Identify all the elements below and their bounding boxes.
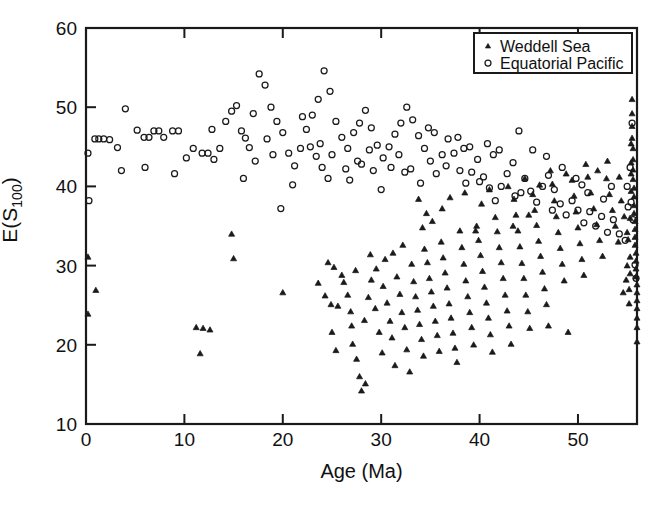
data-point-circle bbox=[433, 171, 439, 177]
data-point-triangle bbox=[430, 303, 436, 308]
data-point-triangle bbox=[555, 229, 561, 234]
data-point-triangle bbox=[559, 261, 565, 266]
data-point-circle bbox=[317, 141, 323, 147]
data-point-triangle bbox=[549, 181, 555, 186]
data-point-triangle bbox=[193, 324, 199, 329]
data-point-triangle bbox=[358, 388, 364, 393]
data-point-triangle bbox=[500, 275, 506, 280]
data-point-triangle bbox=[585, 174, 591, 179]
legend[interactable]: Weddell SeaEquatorial Pacific bbox=[474, 33, 632, 73]
data-point-triangle bbox=[454, 359, 460, 364]
data-point-circle bbox=[625, 204, 631, 210]
data-point-triangle bbox=[197, 350, 203, 355]
data-point-circle bbox=[587, 209, 593, 215]
data-point-circle bbox=[563, 212, 569, 218]
data-point-triangle bbox=[362, 381, 368, 386]
data-point-circle bbox=[359, 161, 365, 167]
data-point-triangle bbox=[629, 111, 635, 116]
data-point-circle bbox=[601, 196, 607, 202]
x-tick-label: 40 bbox=[469, 429, 490, 450]
data-point-circle bbox=[268, 104, 274, 110]
data-point-circle bbox=[368, 125, 374, 131]
data-point-triangle bbox=[436, 348, 442, 353]
data-point-triangle bbox=[322, 293, 328, 298]
data-point-triangle bbox=[615, 239, 621, 244]
data-point-triangle bbox=[349, 323, 355, 328]
data-point-circle bbox=[410, 117, 416, 123]
data-point-triangle bbox=[417, 321, 423, 326]
data-point-triangle bbox=[633, 250, 639, 255]
data-point-circle bbox=[451, 150, 457, 156]
data-point-circle bbox=[616, 231, 622, 237]
data-point-triangle bbox=[447, 194, 453, 199]
data-point-circle bbox=[427, 158, 433, 164]
data-point-triangle bbox=[357, 373, 363, 378]
data-point-triangle bbox=[628, 141, 634, 146]
series-weddell-sea-points bbox=[85, 96, 640, 393]
data-point-triangle bbox=[333, 347, 339, 352]
data-point-triangle bbox=[620, 290, 626, 295]
data-point-triangle bbox=[532, 207, 538, 212]
data-point-triangle bbox=[413, 293, 419, 298]
data-point-triangle bbox=[527, 325, 533, 330]
data-point-triangle bbox=[452, 345, 458, 350]
axis-ticks bbox=[86, 28, 578, 424]
data-point-triangle bbox=[609, 207, 615, 212]
data-point-triangle bbox=[523, 292, 529, 297]
data-point-circle bbox=[183, 155, 189, 161]
data-point-circle bbox=[439, 152, 445, 158]
data-point-circle bbox=[223, 118, 229, 124]
data-point-triangle bbox=[526, 212, 532, 217]
data-point-triangle bbox=[479, 201, 485, 206]
data-point-circle bbox=[175, 128, 181, 134]
data-point-circle bbox=[496, 147, 502, 153]
data-point-triangle bbox=[457, 228, 463, 233]
data-point-circle bbox=[246, 145, 252, 151]
data-point-triangle bbox=[505, 183, 511, 188]
data-point-triangle bbox=[474, 223, 480, 228]
data-point-triangle bbox=[440, 255, 446, 260]
legend-label[interactable]: Weddell Sea bbox=[500, 38, 591, 55]
x-tick-label: 0 bbox=[81, 429, 92, 450]
legend-label[interactable]: Equatorial Pacific bbox=[500, 55, 624, 72]
scatter-plot-figure: E(S100) 01020304050102030405060 Weddell … bbox=[0, 0, 660, 512]
data-point-circle bbox=[343, 166, 349, 172]
data-point-circle bbox=[234, 103, 240, 109]
axis-tick-labels: 01020304050102030405060 bbox=[56, 18, 589, 450]
data-point-triangle bbox=[392, 362, 398, 367]
data-point-circle bbox=[604, 229, 610, 235]
data-point-triangle bbox=[634, 305, 640, 310]
data-point-triangle bbox=[521, 275, 527, 280]
data-point-circle bbox=[205, 150, 211, 156]
data-point-triangle bbox=[563, 171, 569, 176]
data-point-circle bbox=[418, 180, 424, 186]
data-point-triangle bbox=[361, 317, 367, 322]
data-point-triangle bbox=[534, 222, 540, 227]
data-point-triangle bbox=[634, 315, 640, 320]
data-point-triangle bbox=[494, 229, 500, 234]
y-tick-label: 20 bbox=[56, 335, 77, 356]
data-point-triangle bbox=[390, 250, 396, 255]
data-point-triangle bbox=[380, 283, 386, 288]
data-point-triangle bbox=[606, 191, 612, 196]
data-point-circle bbox=[315, 96, 321, 102]
data-point-circle bbox=[443, 163, 449, 169]
data-point-triangle bbox=[634, 297, 640, 302]
data-point-triangle bbox=[485, 315, 491, 320]
data-point-triangle bbox=[421, 246, 427, 251]
data-point-triangle bbox=[439, 206, 445, 211]
data-point-triangle bbox=[432, 318, 438, 323]
data-point-circle bbox=[549, 207, 555, 213]
data-point-triangle bbox=[350, 341, 356, 346]
data-point-triangle bbox=[626, 286, 632, 291]
y-tick-label: 40 bbox=[56, 176, 77, 197]
data-point-triangle bbox=[557, 245, 563, 250]
data-point-circle bbox=[292, 163, 298, 169]
data-point-triangle bbox=[382, 256, 388, 261]
data-point-triangle bbox=[478, 252, 484, 257]
data-point-circle bbox=[347, 177, 353, 183]
data-point-triangle bbox=[448, 315, 454, 320]
data-point-triangle bbox=[418, 336, 424, 341]
data-point-triangle bbox=[444, 285, 450, 290]
data-point-circle bbox=[250, 111, 256, 117]
